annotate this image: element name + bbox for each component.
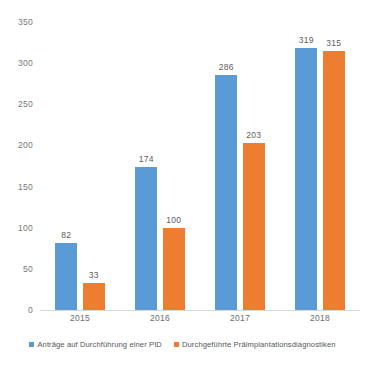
bar-value-label: 174 <box>139 154 154 164</box>
y-axis-tick-label: 350 <box>18 17 33 27</box>
y-axis-tick-label: 250 <box>18 99 33 109</box>
y-axis-tick-labels: 050100150200250300350 <box>0 22 38 314</box>
bar[interactable] <box>215 75 237 310</box>
legend-item[interactable]: Anträge auf Durchführung einer PID <box>29 340 162 349</box>
bar-value-label: 315 <box>326 38 341 48</box>
bar-value-label: 33 <box>89 270 99 280</box>
bar-value-label: 100 <box>166 215 181 225</box>
y-axis-tick-label: 0 <box>28 305 33 315</box>
bar[interactable] <box>135 167 157 310</box>
bar-slot: 286 <box>215 22 237 310</box>
x-axis-tick-label: 2018 <box>310 313 330 323</box>
bar-chart: 050100150200250300350 823317410028620331… <box>0 0 365 369</box>
legend-swatch-icon <box>174 342 179 347</box>
bar[interactable] <box>55 243 77 310</box>
bar-value-label: 203 <box>246 130 261 140</box>
bar[interactable] <box>295 48 317 310</box>
bar[interactable] <box>163 228 185 310</box>
legend-label: Anträge auf Durchführung einer PID <box>37 340 162 349</box>
x-axis-tick-label: 2015 <box>70 313 90 323</box>
bar-value-label: 286 <box>219 62 234 72</box>
bar-value-label: 82 <box>61 230 71 240</box>
bar-slot: 100 <box>163 22 185 310</box>
bar-slot: 319 <box>295 22 317 310</box>
bar-group: 174100 <box>120 22 200 310</box>
bar-slot: 315 <box>323 22 345 310</box>
legend-label: Durchgeführte Präimplantationsdiagnostik… <box>182 340 336 349</box>
y-axis-tick-label: 150 <box>18 182 33 192</box>
y-axis-tick-label: 100 <box>18 223 33 233</box>
bar-slot: 203 <box>243 22 265 310</box>
x-axis-tick-label: 2017 <box>230 313 250 323</box>
legend-swatch-icon <box>29 342 34 347</box>
y-axis-tick-label: 200 <box>18 140 33 150</box>
bars-layer: 8233174100286203319315 <box>40 22 360 310</box>
bar-group: 319315 <box>280 22 360 310</box>
x-axis-tick-label: 2016 <box>150 313 170 323</box>
bar-slot: 33 <box>83 22 105 310</box>
bar-slot: 174 <box>135 22 157 310</box>
chart-legend: Anträge auf Durchführung einer PIDDurchg… <box>0 340 365 349</box>
plot-area: 8233174100286203319315 <box>40 22 360 314</box>
y-axis-tick-label: 300 <box>18 58 33 68</box>
bar-value-label: 319 <box>299 35 314 45</box>
bar-group: 286203 <box>200 22 280 310</box>
bar-group: 8233 <box>40 22 120 310</box>
bar[interactable] <box>243 143 265 310</box>
bar[interactable] <box>83 283 105 310</box>
y-axis-tick-label: 50 <box>23 264 33 274</box>
bar-slot: 82 <box>55 22 77 310</box>
bar[interactable] <box>323 51 345 310</box>
legend-item[interactable]: Durchgeführte Präimplantationsdiagnostik… <box>174 340 336 349</box>
x-axis-tick-labels: 2015201620172018 <box>40 313 360 329</box>
x-axis-line <box>40 310 360 311</box>
